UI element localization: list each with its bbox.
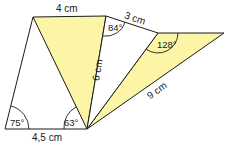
angle-bottom-left: 75°	[10, 117, 25, 128]
geometry-figure: 4 cm 3 cm 6 cm 9 cm 4,5 cm 75° 63° 84° 1…	[0, 0, 227, 143]
label-bottom-side: 4,5 cm	[32, 132, 62, 143]
label-top-left-side: 4 cm	[56, 3, 78, 14]
angle-right-vertex: 128°	[157, 39, 177, 50]
angle-top-middle: 84°	[108, 22, 123, 33]
angle-bottom-apex: 63°	[64, 117, 79, 128]
